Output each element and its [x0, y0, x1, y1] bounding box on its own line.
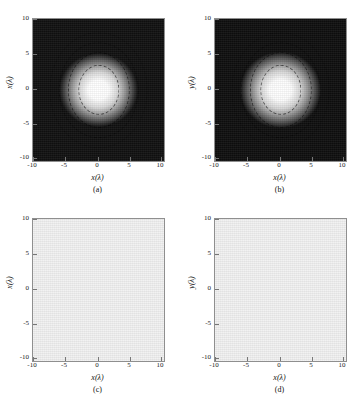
x-tick-label: -10 — [20, 361, 44, 369]
x-tick-label: 10 — [148, 361, 172, 369]
y-tick-label: -10 — [195, 353, 211, 361]
y-axis-title: x(λ) — [5, 253, 14, 313]
y-tick-label: 0 — [195, 84, 211, 92]
plot-area-a — [32, 18, 165, 162]
y-tick — [33, 89, 37, 90]
y-tick — [33, 158, 37, 159]
y-tick-label: 10 — [13, 14, 29, 22]
x-axis-title: x(λ) — [214, 173, 345, 182]
x-axis-title: x(λ) — [32, 373, 163, 382]
y-tick-label: 5 — [13, 249, 29, 257]
y-tick-label: -10 — [13, 153, 29, 161]
y-tick — [215, 358, 219, 359]
y-tick — [33, 19, 37, 20]
y-tick — [33, 324, 37, 325]
y-tick-label: 10 — [195, 214, 211, 222]
y-tick-label: 0 — [13, 84, 29, 92]
x-tick-label: -5 — [234, 161, 258, 169]
y-tick — [215, 254, 219, 255]
x-tick-label: 0 — [85, 361, 109, 369]
x-tick-label: -5 — [234, 361, 258, 369]
panel-caption-c: (c) — [32, 385, 163, 394]
y-tick — [215, 89, 219, 90]
y-axis-title: x(λ) — [5, 53, 14, 113]
x-axis-title: x(λ) — [32, 173, 163, 182]
panel-caption-d: (d) — [214, 385, 345, 394]
x-tick-label: -5 — [52, 161, 76, 169]
y-tick-label: -10 — [195, 153, 211, 161]
y-tick — [215, 54, 219, 55]
x-tick-label: 10 — [148, 161, 172, 169]
x-tick-label: 10 — [330, 361, 354, 369]
panel-b: -10 -5 0 5 10 10 5 0 -5 -10 x(λ) y(λ) (b… — [182, 0, 364, 199]
y-tick-label: 5 — [195, 49, 211, 57]
y-tick — [33, 124, 37, 125]
y-tick — [215, 124, 219, 125]
panel-c: -10 -5 0 5 10 10 5 0 -5 -10 x(λ) x(λ) (c… — [0, 200, 182, 398]
x-tick-label: -5 — [52, 361, 76, 369]
x-tick-label: 5 — [117, 361, 141, 369]
x-tick-label: 5 — [299, 161, 323, 169]
x-tick-label: 5 — [117, 161, 141, 169]
y-tick — [215, 324, 219, 325]
panel-caption-a: (a) — [32, 185, 163, 194]
y-tick — [215, 289, 219, 290]
y-tick-label: 10 — [195, 14, 211, 22]
x-tick-label: -10 — [202, 361, 226, 369]
figure-container: -10 -5 0 5 10 10 5 0 -5 -10 x(λ) x(λ) (a… — [0, 0, 364, 398]
panel-d: -10 -5 0 5 10 10 5 0 -5 -10 x(λ) y(λ) (d… — [182, 200, 364, 398]
panel-caption-b: (b) — [214, 185, 345, 194]
plot-area-c — [32, 218, 165, 362]
y-tick — [215, 19, 219, 20]
y-tick-label: 10 — [13, 214, 29, 222]
x-tick-label: 5 — [299, 361, 323, 369]
y-tick-label: -5 — [195, 319, 211, 327]
heatmap-c — [33, 219, 164, 361]
y-tick-label: -5 — [13, 319, 29, 327]
panel-a: -10 -5 0 5 10 10 5 0 -5 -10 x(λ) x(λ) (a… — [0, 0, 182, 199]
y-tick-label: -5 — [13, 119, 29, 127]
y-tick — [215, 219, 219, 220]
y-tick — [33, 54, 37, 55]
y-tick — [215, 158, 219, 159]
x-tick-label: 0 — [85, 161, 109, 169]
x-tick-label: -10 — [20, 161, 44, 169]
y-axis-title: y(λ) — [187, 253, 196, 313]
plot-area-b — [214, 18, 347, 162]
y-tick — [33, 358, 37, 359]
y-tick-label: 0 — [13, 284, 29, 292]
x-tick-label: -10 — [202, 161, 226, 169]
heatmap-d — [215, 219, 346, 361]
x-tick-label: 10 — [330, 161, 354, 169]
y-axis-title: y(λ) — [187, 53, 196, 113]
contour-ring — [49, 32, 148, 148]
x-tick-label: 0 — [267, 361, 291, 369]
y-tick-label: -5 — [195, 119, 211, 127]
plot-area-d — [214, 218, 347, 362]
contour-ring — [231, 32, 330, 148]
x-axis-title: x(λ) — [214, 373, 345, 382]
y-tick-label: -10 — [13, 353, 29, 361]
y-tick — [33, 219, 37, 220]
y-tick — [33, 289, 37, 290]
x-tick-label: 0 — [267, 161, 291, 169]
y-tick-label: 0 — [195, 284, 211, 292]
y-tick — [33, 254, 37, 255]
y-tick-label: 5 — [13, 49, 29, 57]
y-tick-label: 5 — [195, 249, 211, 257]
